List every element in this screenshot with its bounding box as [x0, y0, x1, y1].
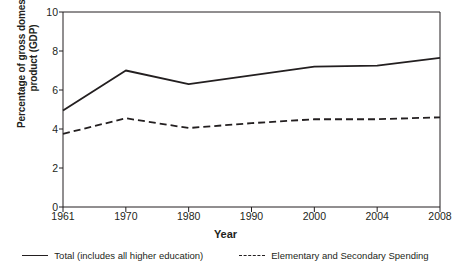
x-axis-tick-label: 2008 — [417, 211, 456, 222]
y-axis-tick-label: 6 — [38, 85, 58, 95]
y-axis-tick-label: 2 — [38, 163, 58, 173]
chart-legend: Total (includes all higher education)Ele… — [0, 250, 451, 261]
x-axis-tick-label: 1970 — [103, 211, 149, 222]
legend-swatch-solid — [22, 255, 48, 256]
x-axis-tick-label: 2000 — [291, 211, 337, 222]
legend-item: Elementary and Secondary Spending — [239, 250, 428, 261]
x-axis-tick-label: 1990 — [229, 211, 275, 222]
x-axis-tick-label: 1961 — [40, 211, 86, 222]
legend-label: Total (includes all higher education) — [54, 250, 203, 261]
legend-swatch-dashed — [239, 255, 265, 256]
x-axis-tick-label: 2004 — [354, 211, 400, 222]
y-axis-tick-label: 8 — [38, 46, 58, 56]
y-axis-tick-labels: 0246810 — [36, 0, 58, 262]
series-line-2 — [63, 117, 440, 134]
legend-item: Total (includes all higher education) — [22, 250, 203, 261]
y-axis-tick-label: 4 — [38, 124, 58, 134]
series-line-1 — [63, 58, 440, 111]
legend-label: Elementary and Secondary Spending — [271, 250, 428, 261]
x-axis-title: Year — [0, 228, 451, 240]
y-axis-tick-label: 10 — [38, 7, 58, 17]
plot-frame — [63, 12, 440, 207]
x-axis-tick-label: 1980 — [166, 211, 212, 222]
